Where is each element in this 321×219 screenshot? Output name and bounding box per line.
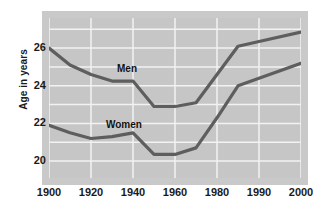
x-tick-label: 1940 <box>121 186 145 198</box>
x-tick-label: 1900 <box>37 186 61 198</box>
chart-figure: 20222426 1900192019401960198019902000 Ag… <box>0 0 321 219</box>
plot-area <box>49 18 301 178</box>
series-label-women: Women <box>106 119 142 130</box>
series-label-men: Men <box>117 63 137 74</box>
x-tick-label: 2000 <box>289 186 313 198</box>
y-axis-title: Age in years <box>18 10 29 150</box>
x-tick-label: 1980 <box>205 186 229 198</box>
x-tick-label: 1960 <box>163 186 187 198</box>
x-tick-label: 1990 <box>247 186 271 198</box>
x-axis-ticks: 1900192019401960198019902000 <box>49 186 301 206</box>
x-tick-label: 1920 <box>79 186 103 198</box>
line-chart-svg <box>49 18 301 178</box>
y-tick-label: 20 <box>20 155 46 166</box>
